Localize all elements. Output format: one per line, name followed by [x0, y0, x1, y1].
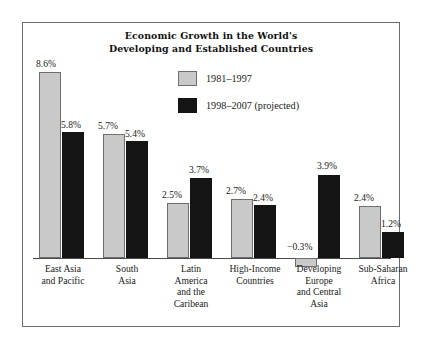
bar-group-bars: 8.6% 5.8%	[37, 53, 89, 258]
bar-value-south-asia-1998-2007: 5.4%	[125, 128, 145, 139]
category-line: and the	[153, 286, 229, 298]
bar-value-latin-america-1998-2007: 3.7%	[189, 164, 209, 175]
bar-value-sub-saharan-africa-1998-2007: 1.2%	[381, 218, 401, 229]
bar-developing-europe-1998-2007	[318, 175, 340, 258]
bar-group-high-income-countries: 2.7% 2.4% High-Income Countries	[229, 53, 281, 322]
bar-group-bars: 2.4% 1.2%	[357, 53, 409, 258]
bar-group-bars: 2.7% 2.4%	[229, 53, 281, 258]
category-line: Africa	[345, 275, 421, 287]
category-line: Asia	[281, 298, 357, 310]
bar-group-bars: 2.5% 3.7%	[165, 53, 217, 258]
bar-group-sub-saharan-africa: 2.4% 1.2% Sub-Saharan Africa	[357, 53, 409, 322]
plot-area: 8.6% 5.8% East Asia and Pacific 5.7% 5.4…	[31, 53, 393, 322]
bar-value-south-asia-1981-1997: 5.7%	[98, 120, 118, 131]
bar-east-asia-and-pacific-1981-1997	[39, 72, 61, 258]
bar-value-east-asia-1998-2007: 5.8%	[61, 119, 81, 130]
chart-title: Economic Growth in the World's Developin…	[23, 30, 399, 55]
bar-value-latin-america-1981-1997: 2.5%	[162, 189, 182, 200]
bar-group-latin-america-and-the-caribean: 2.5% 3.7% Latin America and the Caribean	[165, 53, 217, 322]
bar-value-high-income-1998-2007: 2.4%	[253, 192, 273, 203]
bar-latin-america-1998-2007	[190, 178, 212, 258]
bar-value-high-income-1981-1997: 2.7%	[226, 185, 246, 196]
bar-sub-saharan-africa-1998-2007	[382, 232, 404, 258]
chart-title-line-1: Economic Growth in the World's	[23, 30, 399, 43]
bar-value-east-asia-1981-1997: 8.6%	[36, 58, 56, 69]
bar-group-developing-europe-and-central-asia: −0.3% 3.9% Developing Europe and Central…	[293, 53, 345, 322]
bar-sub-saharan-africa-1981-1997	[359, 206, 381, 258]
bar-south-asia-1998-2007	[126, 141, 148, 258]
category-line: Caribean	[153, 298, 229, 310]
bar-value-developing-europe-1981-1997: −0.3%	[287, 241, 312, 252]
chart-figure: Economic Growth in the World's Developin…	[22, 22, 400, 327]
bar-south-asia-1981-1997	[103, 134, 125, 258]
bar-group-east-asia-and-pacific: 8.6% 5.8% East Asia and Pacific	[37, 53, 89, 322]
bar-group-south-asia: 5.7% 5.4% South Asia	[101, 53, 153, 322]
bar-group-bars: 5.7% 5.4%	[101, 53, 153, 258]
bar-value-sub-saharan-africa-1981-1997: 2.4%	[354, 192, 374, 203]
bar-high-income-1981-1997	[231, 199, 253, 258]
bar-latin-america-1981-1997	[167, 203, 189, 258]
bar-high-income-1998-2007	[254, 205, 276, 258]
category-line: and Central	[281, 286, 357, 298]
bar-value-developing-europe-1998-2007: 3.9%	[317, 160, 337, 171]
category-line: Sub-Saharan	[345, 263, 421, 275]
bar-east-asia-and-pacific-1998-2007	[62, 132, 84, 258]
category-label-sub-saharan-africa: Sub-Saharan Africa	[345, 263, 421, 286]
bar-group-bars: −0.3% 3.9%	[293, 53, 345, 258]
